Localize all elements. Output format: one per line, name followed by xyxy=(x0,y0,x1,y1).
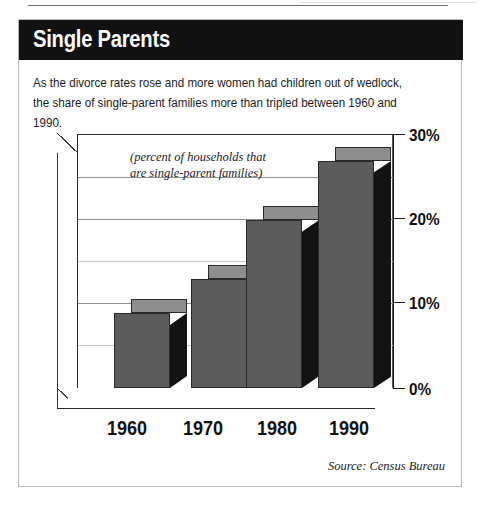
chart-floor xyxy=(57,388,395,409)
intro-paragraph: As the divorce rates rose and more women… xyxy=(33,73,418,133)
bar-1960-front xyxy=(114,313,170,388)
plot-panel: (percent of households that are single-p… xyxy=(77,134,393,388)
y-axis-label-30: 30% xyxy=(409,126,440,146)
bar-1980-front xyxy=(246,220,302,388)
bar-1980-top xyxy=(263,206,319,220)
chart-left-wall xyxy=(57,134,78,409)
title-banner: Single Parents xyxy=(19,20,463,60)
bar-1990-side xyxy=(374,161,391,388)
page-title: Single Parents xyxy=(33,26,170,53)
bar-1970 xyxy=(191,135,247,388)
bar-1980 xyxy=(246,135,302,388)
y-tick-10 xyxy=(393,302,405,303)
bar-1990-top xyxy=(335,147,391,161)
x-axis-label-1990: 1990 xyxy=(316,416,381,440)
x-axis-label-1980: 1980 xyxy=(244,416,309,440)
bar-1970-front xyxy=(191,279,247,388)
bar-1980-side xyxy=(302,220,319,388)
x-axis-label-1970: 1970 xyxy=(170,416,235,440)
x-axis-label-1960: 1960 xyxy=(94,416,159,440)
bar-1960 xyxy=(114,135,170,388)
y-axis-label-10: 10% xyxy=(409,294,440,314)
y-axis-label-0: 0% xyxy=(409,380,431,400)
bar-1990 xyxy=(318,135,374,388)
bar-chart: (percent of households that are single-p… xyxy=(39,126,443,446)
y-tick-30 xyxy=(393,134,405,135)
chart-left-wall-edge xyxy=(57,153,58,409)
y-tick-20 xyxy=(393,218,405,219)
bar-1990-front xyxy=(318,161,374,388)
top-rule xyxy=(28,5,448,6)
figure-card: Single Parents As the divorce rates rose… xyxy=(18,19,462,487)
chart-floor-front-edge xyxy=(57,408,375,409)
bar-1960-top xyxy=(131,299,187,313)
y-axis-spine xyxy=(393,134,394,389)
source-note: Source: Census Bureau xyxy=(328,459,445,474)
y-axis-label-20: 20% xyxy=(409,210,440,230)
y-tick-0 xyxy=(393,388,405,389)
chart-wall-top-diagonal xyxy=(57,133,79,154)
top-faint-rule xyxy=(300,2,476,3)
bar-1960-side xyxy=(170,313,187,388)
